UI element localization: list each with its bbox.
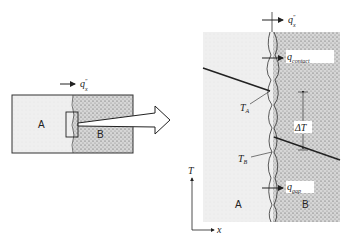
delta-t-label: ΔT — [294, 122, 308, 133]
material-b-label: B — [97, 129, 104, 140]
magnified-panel: qx″ qcontact qgap TA TB ΔT A B — [203, 12, 340, 222]
material-a-region — [203, 32, 273, 222]
material-a-label: A — [38, 119, 45, 130]
heat-flux-label: qx″ — [80, 78, 88, 92]
t-axis-label: T — [188, 165, 195, 176]
overview-panel: qx″ A B — [12, 78, 170, 153]
material-a-label: A — [235, 199, 242, 210]
x-axis-label: x — [216, 224, 222, 235]
material-b-label: B — [302, 199, 309, 210]
heat-flux-label: qx″ — [288, 14, 296, 28]
thermal-contact-diagram: qx″ A B qx″ qcontact qgap TA TB — [0, 0, 354, 242]
